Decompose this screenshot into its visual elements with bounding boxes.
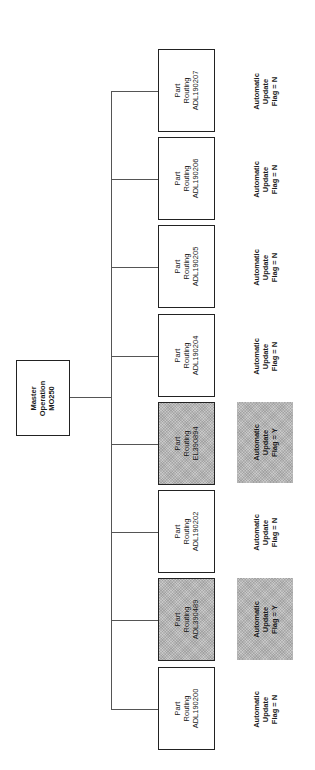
flag-label-adl390489: Automatic Update Flag = Y [237,578,293,660]
flag-label-line3: Flag = N [269,161,278,198]
routing-label-line1: Part [173,247,182,287]
flag-label-line3: Flag = Y [269,424,278,461]
flag-label-line1: Automatic [251,73,260,110]
routing-label-line3: EL390894 [191,426,200,460]
flag-label-line2: Update [260,73,269,110]
flag-label-line2: Update [260,338,269,375]
master-label-line1: Master [29,380,38,415]
routing-label-line2: Routing [182,336,191,376]
part-routing-box-adl390489: Part Routing ADL390489 [158,578,215,661]
flag-label-line3: Flag = N [269,249,278,286]
routing-label-line3: ADL190206 [191,159,200,199]
flag-label-line2: Update [260,691,269,728]
branch-connector [111,91,158,92]
routing-label-line1: Part [173,600,182,640]
flag-label-adl190202: Automatic Update Flag = N [237,492,293,572]
branch-connector [111,709,158,710]
branch-connector [111,356,158,357]
flag-label-line3: Flag = N [269,73,278,110]
routing-label-line2: Routing [182,512,191,552]
routing-label-line2: Routing [182,159,191,199]
flag-label-line2: Update [260,249,269,286]
routing-label-line1: Part [173,159,182,199]
master-connector [69,397,111,398]
routing-label-line1: Part [173,689,182,729]
flag-label-line2: Update [260,424,269,461]
part-routing-box-adl190205: Part Routing ADL190205 [158,225,215,308]
flag-label-adl190204: Automatic Update Flag = N [237,316,293,396]
master-label-line3: MO250 [47,380,56,415]
routing-label-line1: Part [173,512,182,552]
routing-label-line3: ADL190202 [191,512,200,552]
flag-label-adl190207: Automatic Update Flag = N [237,51,293,131]
flag-label-line1: Automatic [251,161,260,198]
part-routing-box-adl190207: Part Routing ADL190207 [158,49,215,132]
flag-label-line1: Automatic [251,249,260,286]
flag-label-line1: Automatic [251,691,260,728]
routing-label-line3: ADL190205 [191,247,200,287]
flag-label-line3: Flag = N [269,691,278,728]
part-routing-box-adl190200: Part Routing ADL190200 [158,667,215,750]
routing-label-line2: Routing [182,689,191,729]
flag-label-line3: Flag = Y [269,601,278,638]
master-operation-box: Master Operation MO250 [16,360,70,436]
flag-label-line2: Update [260,601,269,638]
flag-label-line1: Automatic [251,424,260,461]
flag-label-line1: Automatic [251,338,260,375]
part-routing-box-adl190204: Part Routing ADL190204 [158,314,215,397]
flag-label-line3: Flag = N [269,338,278,375]
flag-label-adl190205: Automatic Update Flag = N [237,227,293,307]
master-label-line2: Operation [38,380,47,415]
flag-label-el390894: Automatic Update Flag = Y [237,402,293,483]
routing-label-line2: Routing [182,600,191,640]
branch-connector [111,532,158,533]
routing-label-line2: Routing [182,71,191,111]
routing-label-line3: ADL390489 [191,600,200,640]
part-routing-box-adl190206: Part Routing ADL190206 [158,137,215,220]
routing-label-line1: Part [173,336,182,376]
flag-label-adl190200: Automatic Update Flag = N [237,669,293,749]
flag-label-adl190206: Automatic Update Flag = N [237,139,293,219]
routing-label-line3: ADL190207 [191,71,200,111]
routing-label-line2: Routing [182,247,191,287]
tree-diagram: Master Operation MO250 Part Routing ADL1… [0,0,315,770]
flag-label-line2: Update [260,161,269,198]
flag-label-line2: Update [260,514,269,551]
branch-connector [111,179,158,180]
part-routing-box-el390894: Part Routing EL390894 [158,402,215,485]
routing-label-line3: ADL190200 [191,689,200,729]
branch-connector [111,620,158,621]
branch-connector [111,267,158,268]
routing-label-line1: Part [173,71,182,111]
flag-label-line1: Automatic [251,514,260,551]
flag-label-line3: Flag = N [269,514,278,551]
routing-label-line3: ADL190204 [191,336,200,376]
vertical-spine [111,91,112,710]
flag-label-line1: Automatic [251,601,260,638]
branch-connector [111,444,158,445]
part-routing-box-adl190202: Part Routing ADL190202 [158,490,215,573]
